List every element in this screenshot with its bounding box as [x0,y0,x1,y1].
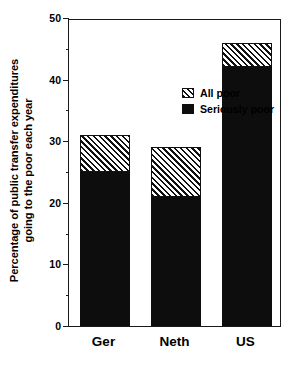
bar-neth [151,147,201,326]
y-tick-label: 0 [55,320,61,332]
legend-swatch-solid-icon [182,104,194,114]
plot-area: 01020304050 All poor Seriously poor [68,19,281,327]
chart-figure: Percentage of public transfer expenditur… [0,0,299,371]
y-tick-mark [63,141,69,142]
legend-item-seriously-poor: Seriously poor [182,102,274,116]
y-minor-tick-mark [66,110,70,111]
y-tick-label: 20 [49,197,61,209]
bar-ger [80,135,130,326]
bar-segment-seriously-poor [151,197,201,326]
y-tick-label: 50 [49,12,61,24]
y-tick-mark [63,18,69,19]
y-tick-mark [63,80,69,81]
y-minor-tick-mark [66,172,70,173]
y-axis-title: Percentage of public transfer expenditur… [0,0,44,340]
y-minor-tick-mark [66,295,70,296]
legend-label-all-poor: All poor [200,87,240,99]
legend-label-seriously-poor: Seriously poor [200,103,274,115]
chart-legend: All poor Seriously poor [182,86,274,117]
bar-segment-seriously-poor [80,172,130,326]
bar-segment-all-poor [222,43,272,68]
y-tick-label: 40 [49,74,61,86]
y-tick-label: 10 [49,258,61,270]
bar-segment-all-poor [80,135,130,172]
y-tick-mark [63,264,69,265]
x-axis-label-neth: Neth [160,334,190,349]
y-tick-label: 30 [49,135,61,147]
bar-segment-all-poor [151,147,201,196]
legend-item-all-poor: All poor [182,86,274,100]
x-axis-label-ger: Ger [92,334,115,349]
y-axis-title-line-1: Percentage of public transfer expenditur… [9,58,23,281]
y-tick-mark [63,203,69,204]
y-minor-tick-mark [66,49,70,50]
x-axis-label-us: US [236,334,255,349]
y-minor-tick-mark [66,234,70,235]
legend-swatch-hatch-icon [182,88,194,98]
y-tick-mark [63,326,69,327]
y-axis-title-line-2: going to the poor each year [22,58,36,281]
